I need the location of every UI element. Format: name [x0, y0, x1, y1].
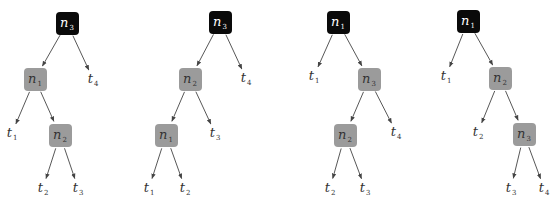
tree-diagram-canvas: n3n1n2t4t1t2t3n3n2n1t4t3t1t2n1n3n2t1t4t2… [0, 0, 556, 200]
leaf-subscript: 2 [186, 189, 190, 197]
edge-arrow [350, 148, 362, 179]
leaf-label: t2 [180, 180, 191, 197]
edge-arrow [318, 35, 332, 67]
leaf-subscript: 2 [479, 133, 483, 141]
node-label: n3 [517, 126, 531, 143]
edge-arrow [375, 91, 391, 123]
leaf-label: t1 [7, 125, 18, 142]
edge-arrow [65, 148, 75, 178]
edge-arrow [196, 92, 211, 124]
leaf-subscript: 4 [397, 133, 401, 141]
leaf-label: t4 [241, 70, 252, 87]
edge-arrow [450, 34, 463, 67]
leaf-subscript: 3 [512, 189, 516, 197]
edge-arrow [345, 34, 362, 66]
leaf-subscript: 1 [150, 189, 154, 197]
node-label: n1 [28, 71, 42, 88]
leaf-label: t4 [391, 124, 402, 141]
edge-arrow [172, 92, 185, 121]
edge-arrow [226, 35, 242, 69]
node-subscript: 3 [526, 135, 530, 143]
leaf-label: t3 [360, 180, 371, 197]
node-label: n3 [60, 15, 74, 32]
edge-arrow [152, 148, 162, 178]
node-label: n1 [461, 13, 475, 30]
leaf-label: t2 [38, 180, 49, 197]
edge-arrow [16, 92, 30, 124]
root-node: n3 [56, 12, 79, 35]
internal-node: n2 [179, 68, 202, 91]
internal-node: n1 [24, 68, 47, 91]
root-node: n1 [327, 11, 350, 34]
leaf-subscript: 2 [44, 189, 48, 197]
leaf-subscript: 1 [447, 77, 451, 85]
edge-arrow [171, 148, 182, 178]
edge-arrow [46, 148, 56, 178]
leaf-subscript: 4 [94, 80, 98, 88]
edge-arrow [42, 35, 60, 66]
edge-arrow [513, 148, 520, 179]
node-subscript: 1 [470, 22, 474, 30]
node-label: n3 [213, 14, 227, 31]
leaf-subscript: 4 [247, 79, 251, 87]
edge-arrow [41, 92, 54, 122]
leaf-label: t4 [88, 71, 99, 88]
leaf-subscript: 1 [13, 134, 17, 142]
node-subscript: 2 [192, 80, 196, 88]
leaf-subscript: 3 [366, 189, 370, 197]
internal-node: n2 [489, 67, 512, 90]
node-subscript: 2 [62, 136, 66, 144]
leaf-label: t2 [325, 180, 336, 197]
node-subscript: 1 [168, 136, 172, 144]
node-label: n2 [53, 127, 67, 144]
leaf-subscript: 1 [315, 77, 319, 85]
internal-node: n2 [334, 124, 357, 147]
edge-arrow [197, 34, 213, 65]
edge-arrow [529, 147, 541, 178]
root-node: n1 [457, 10, 480, 33]
leaf-subscript: 4 [545, 189, 549, 197]
leaf-label: t3 [506, 180, 517, 197]
edge-arrow [506, 91, 519, 120]
node-subscript: 1 [340, 23, 344, 31]
node-subscript: 2 [502, 79, 506, 87]
node-subscript: 3 [371, 80, 375, 88]
node-subscript: 3 [222, 23, 226, 31]
edge-arrow [333, 148, 341, 178]
leaf-subscript: 3 [216, 134, 220, 142]
leaf-label: t3 [73, 180, 84, 197]
edge-arrow [475, 33, 493, 65]
internal-node: n3 [513, 123, 536, 146]
leaf-label: t4 [539, 180, 550, 197]
node-subscript: 1 [37, 80, 41, 88]
node-label: n1 [159, 127, 173, 144]
edge-arrow [73, 36, 89, 70]
leaf-label: t1 [309, 68, 320, 85]
node-label: n2 [493, 70, 507, 87]
node-label: n2 [183, 71, 197, 88]
leaf-label: t2 [473, 124, 484, 141]
leaf-label: t1 [441, 68, 452, 85]
leaf-label: t3 [210, 125, 221, 142]
node-label: n2 [338, 127, 352, 144]
edge-arrow [351, 92, 364, 121]
leaf-label: t1 [144, 180, 155, 197]
internal-node: n3 [358, 68, 381, 91]
leaf-subscript: 2 [331, 189, 335, 197]
node-label: n1 [331, 14, 345, 31]
internal-node: n2 [49, 124, 72, 147]
node-subscript: 3 [69, 24, 73, 32]
leaf-subscript: 3 [79, 189, 83, 197]
internal-node: n1 [155, 124, 178, 147]
root-node: n3 [209, 11, 232, 34]
node-label: n3 [362, 71, 376, 88]
edge-arrow [482, 91, 495, 123]
node-subscript: 2 [347, 136, 351, 144]
